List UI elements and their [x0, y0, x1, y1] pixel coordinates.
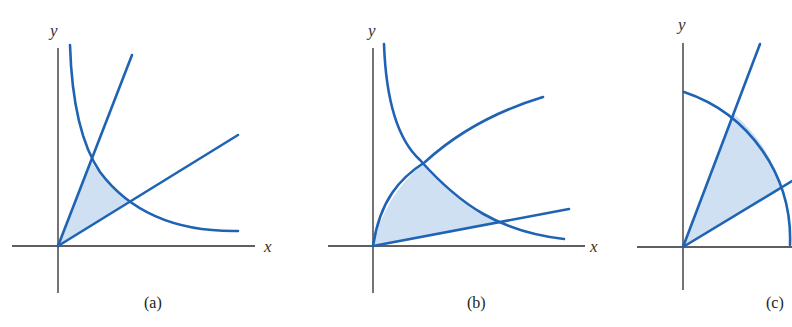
x-axis-label-a: x [263, 237, 272, 256]
x-axis-label-b: x [589, 237, 598, 256]
y-axis-label-b: y [366, 21, 376, 40]
shaded-region-a [58, 162, 129, 246]
caption-c: (c) [766, 294, 784, 312]
panel-b: y x (b) [328, 21, 598, 312]
panel-c: y (c) [637, 15, 792, 312]
caption-a: (a) [144, 294, 162, 312]
figure-canvas: y x (a) y x (b) y (c) [0, 0, 792, 327]
panel-a: y x (a) [12, 21, 272, 312]
y-axis-label-a: y [48, 21, 58, 40]
caption-b: (b) [467, 294, 486, 312]
y-axis-label-c: y [676, 15, 686, 34]
shaded-region-c [683, 114, 782, 247]
